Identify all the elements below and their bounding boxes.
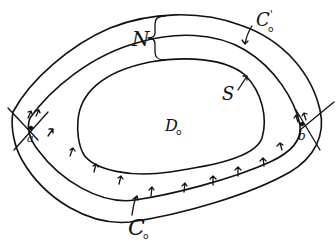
label-d0-sub: o [176, 127, 182, 137]
c0-pointer [132, 196, 138, 215]
arrow-icon [302, 113, 307, 120]
diagram-canvas: N C o ' S D o a b C o [0, 0, 336, 246]
label-c0-prime-mark: ' [270, 9, 273, 20]
arrow-icon [35, 110, 40, 116]
arrow-icon [277, 143, 283, 150]
label-c0-prime-sub: o [268, 24, 274, 34]
c0-prime-pointer [242, 26, 252, 44]
arrow-icon [118, 176, 123, 184]
s-pointer [238, 76, 247, 90]
point-b [300, 122, 304, 126]
point-a [29, 126, 33, 130]
arrow-icon [70, 148, 75, 156]
label-c0-sub: o [143, 231, 149, 241]
label-s: S [222, 83, 234, 104]
label-b: b [298, 129, 306, 143]
arrow-icon [48, 129, 53, 136]
arrow-icon [149, 187, 154, 196]
label-a: a [27, 132, 34, 145]
arrow-icon [93, 164, 98, 172]
label-n: N [131, 27, 151, 51]
